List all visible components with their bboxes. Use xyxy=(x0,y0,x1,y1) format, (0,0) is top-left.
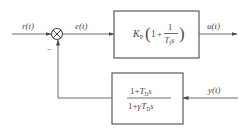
svg-text:1: 1 xyxy=(168,22,172,32)
block-diagram: r(t) − e(t) KP ( 1 + 1 TIs ) u(t) 1+TDs … xyxy=(0,0,252,134)
output-signal-label: u(t) xyxy=(207,21,220,31)
error-signal-label: e(t) xyxy=(75,21,88,31)
svg-text:+: + xyxy=(157,29,162,39)
input-signal-label: r(t) xyxy=(22,21,34,31)
feedback-path-line xyxy=(58,40,112,98)
minus-sign: − xyxy=(47,45,52,54)
svg-text:1: 1 xyxy=(151,29,156,39)
svg-text:): ) xyxy=(179,24,185,43)
svg-text:1+γTDs: 1+γTDs xyxy=(128,101,153,112)
measurement-signal-label: y(t) xyxy=(207,85,221,95)
svg-text:1+TDs: 1+TDs xyxy=(130,86,152,97)
feedback-filter-block xyxy=(112,73,183,124)
summing-junction xyxy=(52,29,63,40)
